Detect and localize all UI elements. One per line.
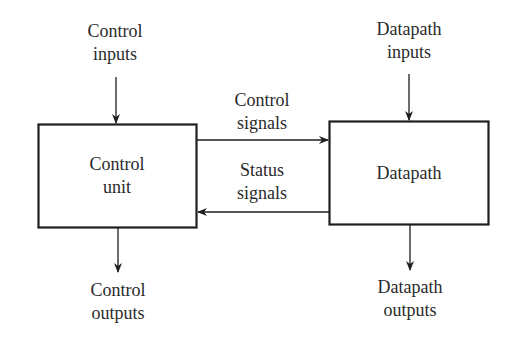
control-outputs-line1: Control (90, 279, 145, 302)
datapath-inputs-label: Datapath inputs (377, 18, 442, 64)
status-signals-line2: signals (237, 182, 287, 205)
control-inputs-label: Control inputs (87, 20, 142, 66)
datapath-label: Datapath (377, 162, 442, 185)
control-signals-line1: Control (234, 89, 289, 112)
datapath-line1: Datapath (377, 162, 442, 185)
datapath-inputs-line1: Datapath (377, 18, 442, 41)
control-signals-line2: signals (234, 112, 289, 135)
control-unit-line2: unit (89, 176, 144, 199)
datapath-outputs-line1: Datapath (378, 276, 443, 299)
status-signals-label: Status signals (237, 159, 287, 205)
datapath-inputs-line2: inputs (377, 41, 442, 64)
control-inputs-line2: inputs (87, 43, 142, 66)
control-signals-label: Control signals (234, 89, 289, 135)
control-outputs-label: Control outputs (90, 279, 145, 325)
control-outputs-line2: outputs (90, 302, 145, 325)
status-signals-line1: Status (237, 159, 287, 182)
control-unit-line1: Control (89, 153, 144, 176)
control-unit-label: Control unit (89, 153, 144, 199)
datapath-outputs-line2: outputs (378, 299, 443, 322)
control-inputs-line1: Control (87, 20, 142, 43)
datapath-outputs-label: Datapath outputs (378, 276, 443, 322)
